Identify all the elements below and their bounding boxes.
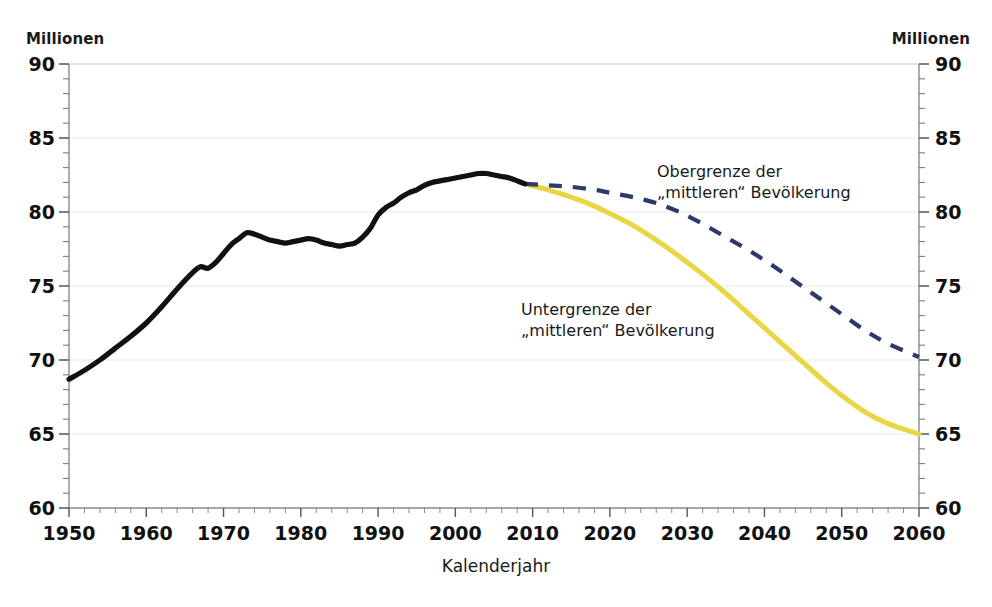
y-tick-right-65: 65 (935, 423, 961, 445)
y-tick-right-70: 70 (935, 349, 961, 371)
annotation-lower-bound: Untergrenze der „mittleren“ Bevölkerung (521, 300, 715, 342)
y-tick-right-60: 60 (935, 497, 961, 519)
y-tick-left-70: 70 (29, 349, 55, 371)
y-axis-unit-right: Millionen (892, 30, 970, 48)
plot-area (0, 0, 992, 607)
axis-ticks (59, 64, 929, 517)
y-tick-left-80: 80 (29, 201, 55, 223)
x-tick-1990: 1990 (352, 522, 405, 544)
annotation-upper-line1: Obergrenze der (657, 162, 851, 183)
y-tick-left-90: 90 (29, 53, 55, 75)
y-tick-left-65: 65 (29, 423, 55, 445)
y-tick-right-85: 85 (935, 127, 961, 149)
y-tick-right-80: 80 (935, 201, 961, 223)
y-tick-left-60: 60 (29, 497, 55, 519)
series-line-0 (69, 173, 525, 379)
annotation-lower-line2: „mittleren“ Bevölkerung (521, 321, 715, 342)
x-axis-title: Kalenderjahr (0, 556, 992, 576)
annotation-lower-line1: Untergrenze der (521, 300, 715, 321)
population-projection-chart: Millionen Millionen 90858075706560 90858… (0, 0, 992, 607)
y-tick-left-75: 75 (29, 275, 55, 297)
x-tick-2010: 2010 (506, 522, 559, 544)
y-tick-left-85: 85 (29, 127, 55, 149)
x-tick-2060: 2060 (893, 522, 946, 544)
y-tick-right-75: 75 (935, 275, 961, 297)
x-tick-2000: 2000 (429, 522, 482, 544)
y-axis-unit-left: Millionen (26, 30, 104, 48)
x-tick-2030: 2030 (661, 522, 714, 544)
x-tick-1950: 1950 (43, 522, 96, 544)
x-tick-2050: 2050 (815, 522, 868, 544)
y-tick-right-90: 90 (935, 53, 961, 75)
x-tick-1970: 1970 (197, 522, 250, 544)
x-tick-2020: 2020 (583, 522, 636, 544)
x-tick-1960: 1960 (120, 522, 173, 544)
x-tick-1980: 1980 (274, 522, 327, 544)
annotation-upper-line2: „mittleren“ Bevölkerung (657, 183, 851, 204)
annotation-upper-bound: Obergrenze der „mittleren“ Bevölkerung (657, 162, 851, 204)
x-tick-2040: 2040 (738, 522, 791, 544)
